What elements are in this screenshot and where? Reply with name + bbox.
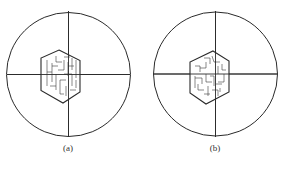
panel-b — [154, 11, 278, 137]
figure-canvas — [0, 0, 286, 173]
panel-a — [7, 11, 131, 137]
caption-a: (a) — [63, 143, 73, 153]
caption-b: (b) — [210, 143, 221, 153]
hexagon-b — [190, 51, 229, 104]
